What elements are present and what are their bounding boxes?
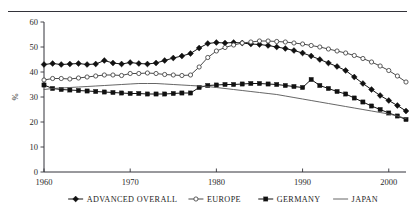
legend-label: JAPAN xyxy=(352,195,378,204)
x-axis: 19601970198019902000 xyxy=(36,169,407,188)
y-tick-label: 0 xyxy=(34,167,38,177)
x-tick-label: 1990 xyxy=(294,177,311,187)
chart-series-group xyxy=(41,39,409,122)
y-axis: 0102030405060 xyxy=(30,17,45,177)
legend-item-advanced-overall[interactable]: ADVANCED OVERALL xyxy=(68,195,177,204)
y-tick-label: 20 xyxy=(30,117,39,127)
y-tick-label: 30 xyxy=(30,92,39,102)
series-germany xyxy=(42,77,408,121)
legend-item-europe[interactable]: EUROPE xyxy=(188,195,240,204)
line-chart: 0102030405060 19601970198019902000 % ADV… xyxy=(0,0,415,217)
x-tick-label: 1960 xyxy=(36,177,53,187)
y-tick-label: 40 xyxy=(30,67,39,77)
chart-container: 0102030405060 19601970198019902000 % ADV… xyxy=(0,0,415,217)
x-tick-label: 1970 xyxy=(122,177,139,187)
x-tick-label: 1980 xyxy=(208,177,225,187)
legend-label: GERMANY xyxy=(277,195,321,204)
y-tick-label: 60 xyxy=(30,17,39,27)
chart-legend: ADVANCED OVERALLEUROPEGERMANYJAPAN xyxy=(68,195,378,204)
legend-item-japan[interactable]: JAPAN xyxy=(333,195,378,204)
legend-item-germany[interactable]: GERMANY xyxy=(258,195,320,204)
y-axis-label: % xyxy=(10,93,20,100)
legend-label: ADVANCED OVERALL xyxy=(87,195,178,204)
series-japan xyxy=(44,84,406,119)
y-axis-title: % xyxy=(10,93,20,100)
x-tick-label: 2000 xyxy=(380,177,397,187)
legend-label: EUROPE xyxy=(207,195,241,204)
y-tick-label: 10 xyxy=(30,142,39,152)
y-tick-label: 50 xyxy=(30,42,39,52)
